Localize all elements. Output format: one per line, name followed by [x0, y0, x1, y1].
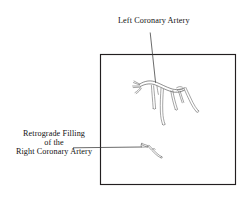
- label-left-coronary-artery: Left Coronary Artery: [118, 17, 190, 26]
- image-frame: [101, 55, 236, 185]
- figure-root: Left Coronary Artery Retrograde Filling …: [0, 0, 248, 199]
- label-retrograde-line-3: Right Coronary Artery: [6, 148, 102, 157]
- right-coronary-artery-drawing: [141, 143, 162, 158]
- label-retrograde-right-coronary-artery: Retrograde Filling of the Right Coronary…: [6, 130, 102, 157]
- leader-line-left-coronary: [150, 33, 155, 83]
- angiogram-figure: [0, 0, 248, 199]
- left-coronary-artery-drawing: [133, 81, 199, 125]
